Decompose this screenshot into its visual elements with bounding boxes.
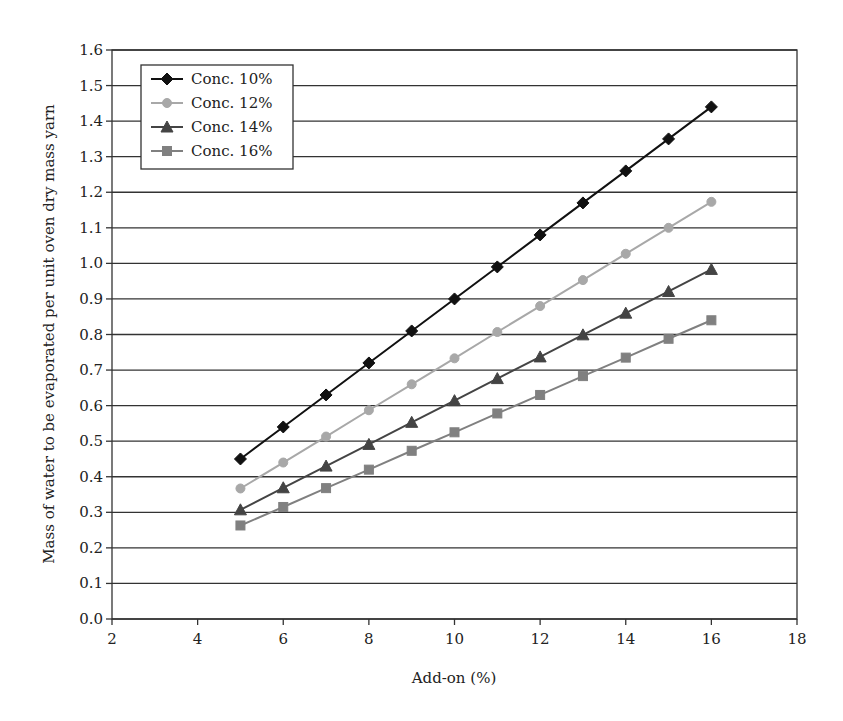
circle-marker bbox=[407, 380, 416, 389]
legend-label: Conc. 16% bbox=[191, 142, 272, 160]
triangle-marker bbox=[406, 416, 418, 427]
legend-label: Conc. 10% bbox=[191, 70, 272, 88]
y-tick-label: 1.0 bbox=[79, 254, 103, 272]
square-marker bbox=[707, 316, 716, 325]
triangle-marker bbox=[277, 482, 289, 493]
square-marker bbox=[322, 484, 331, 493]
triangle-marker bbox=[320, 460, 332, 471]
y-tick-label: 0.6 bbox=[79, 397, 103, 415]
y-tick-label: 0.9 bbox=[79, 290, 103, 308]
series-conc-10- bbox=[234, 101, 717, 465]
circle-marker bbox=[621, 249, 630, 258]
triangle-marker bbox=[363, 438, 375, 449]
data-series bbox=[234, 101, 717, 530]
legend-label: Conc. 12% bbox=[191, 94, 272, 112]
y-tick-label: 1.4 bbox=[79, 112, 103, 130]
x-tick-label: 4 bbox=[193, 630, 203, 648]
y-tick-label: 0.3 bbox=[79, 503, 103, 521]
triangle-marker bbox=[663, 285, 675, 296]
y-tick-label: 0.1 bbox=[79, 574, 103, 592]
x-tick-label: 14 bbox=[616, 630, 635, 648]
circle-marker bbox=[664, 223, 673, 232]
triangle-marker bbox=[620, 307, 632, 318]
circle-marker bbox=[578, 276, 587, 285]
square-marker bbox=[450, 428, 459, 437]
triangle-marker bbox=[534, 351, 546, 362]
triangle-marker bbox=[491, 373, 503, 384]
square-marker bbox=[163, 147, 172, 156]
x-tick-label: 16 bbox=[702, 630, 721, 648]
y-tick-label: 1.3 bbox=[79, 148, 103, 166]
circle-marker bbox=[236, 484, 245, 493]
square-marker bbox=[578, 372, 587, 381]
triangle-marker bbox=[234, 504, 246, 515]
circle-marker bbox=[493, 328, 502, 337]
series-line bbox=[240, 320, 711, 525]
line-chart: 0.00.10.20.30.40.50.60.70.80.91.01.11.21… bbox=[0, 0, 843, 721]
y-tick-label: 0.5 bbox=[79, 432, 103, 450]
square-marker bbox=[236, 521, 245, 530]
legend-label: Conc. 14% bbox=[191, 118, 272, 136]
x-tick-label: 10 bbox=[445, 630, 464, 648]
circle-marker bbox=[536, 302, 545, 311]
series-conc-16- bbox=[236, 316, 716, 530]
circle-marker bbox=[163, 99, 172, 108]
series-conc-12- bbox=[236, 197, 716, 493]
square-marker bbox=[664, 334, 673, 343]
y-tick-label: 0.0 bbox=[79, 610, 103, 628]
circle-marker bbox=[364, 406, 373, 415]
circle-marker bbox=[450, 354, 459, 363]
y-axis-title: Mass of water to be evaporated per unit … bbox=[40, 104, 58, 564]
x-tick-label: 18 bbox=[787, 630, 806, 648]
circle-marker bbox=[322, 432, 331, 441]
circle-marker bbox=[707, 197, 716, 206]
y-tick-label: 0.2 bbox=[79, 539, 103, 557]
y-tick-label: 0.4 bbox=[79, 468, 103, 486]
y-tick-label: 1.2 bbox=[79, 183, 103, 201]
triangle-marker bbox=[705, 263, 717, 274]
square-marker bbox=[407, 446, 416, 455]
y-tick-label: 1.6 bbox=[79, 41, 103, 59]
square-marker bbox=[536, 390, 545, 399]
y-tick-label: 1.1 bbox=[79, 219, 103, 237]
square-marker bbox=[364, 465, 373, 474]
y-tick-label: 1.5 bbox=[79, 77, 103, 95]
x-tick-label: 12 bbox=[531, 630, 550, 648]
x-tick-label: 6 bbox=[278, 630, 288, 648]
square-marker bbox=[493, 409, 502, 418]
x-tick-label: 8 bbox=[364, 630, 374, 648]
y-tick-label: 0.7 bbox=[79, 361, 103, 379]
x-tick-label: 2 bbox=[107, 630, 117, 648]
square-marker bbox=[279, 502, 288, 511]
y-tick-label: 0.8 bbox=[79, 326, 103, 344]
square-marker bbox=[621, 353, 630, 362]
x-axis-title: Add-on (%) bbox=[411, 669, 497, 687]
series-line bbox=[240, 269, 711, 509]
legend: Conc. 10%Conc. 12%Conc. 14%Conc. 16% bbox=[141, 65, 293, 169]
triangle-marker bbox=[449, 395, 461, 406]
series-line bbox=[240, 202, 711, 489]
circle-marker bbox=[279, 458, 288, 467]
